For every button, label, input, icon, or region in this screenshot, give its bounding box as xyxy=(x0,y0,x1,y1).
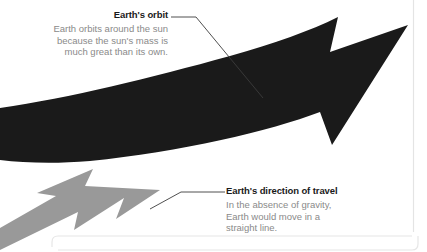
rounded-panel-border xyxy=(52,236,412,247)
rounded-panel-border-lower xyxy=(58,236,418,250)
callout-body-line: because the sun's mass is xyxy=(14,35,168,47)
callout-body-line: In the absence of gravity, xyxy=(226,199,376,211)
direction-of-travel-leader-line xyxy=(150,192,225,209)
callout-body-line: straight line. xyxy=(226,222,376,234)
callout-earths-orbit-title: Earth's orbit xyxy=(14,9,168,21)
callout-earths-orbit: Earth's orbit Earth orbits around the su… xyxy=(14,9,168,58)
callout-earths-orbit-body: Earth orbits around the sun because the … xyxy=(14,23,168,58)
callout-body-line: Earth would move in a xyxy=(226,211,376,223)
callout-direction-of-travel-title: Earth's direction of travel xyxy=(226,185,376,197)
callout-body-line: Earth orbits around the sun xyxy=(14,23,168,35)
callout-direction-of-travel-body: In the absence of gravity, Earth would m… xyxy=(226,199,376,234)
callout-body-line: much great than its own. xyxy=(14,46,168,58)
infographic-canvas: Earth's orbit Earth orbits around the su… xyxy=(0,0,427,252)
direction-of-travel-arrow xyxy=(0,169,160,250)
callout-direction-of-travel: Earth's direction of travel In the absen… xyxy=(226,185,376,234)
